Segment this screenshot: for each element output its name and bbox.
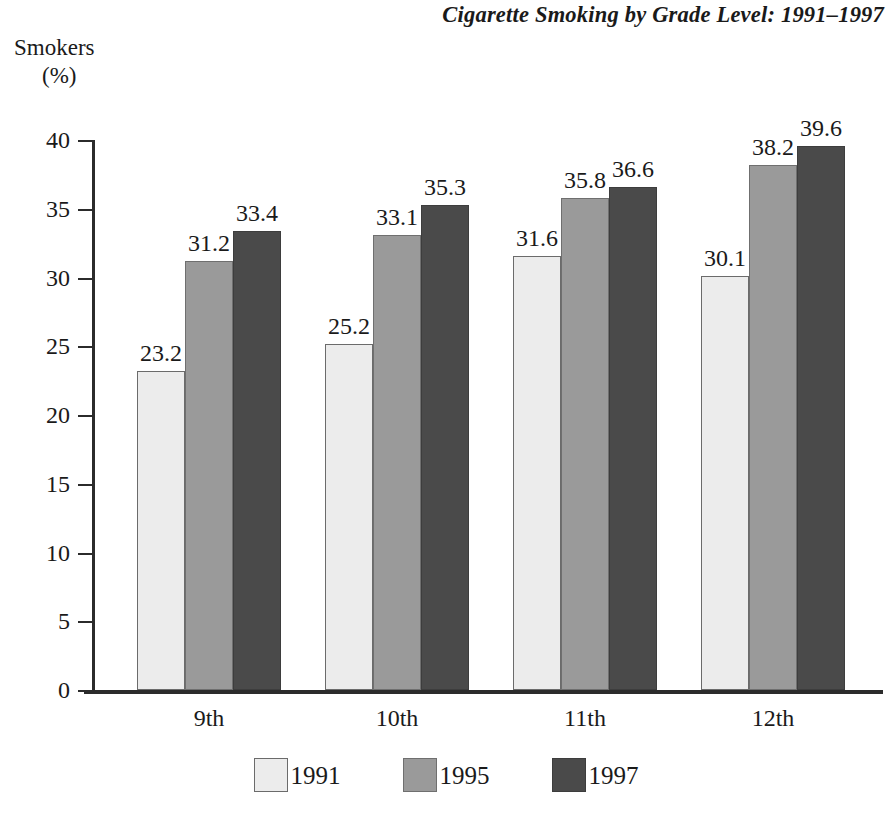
legend-item-1991[interactable]: 1991 bbox=[254, 758, 341, 792]
bar-12th-1991 bbox=[701, 276, 749, 690]
y-tick-label: 20 bbox=[46, 403, 70, 427]
y-tick-label: 0 bbox=[58, 678, 70, 702]
y-tick-label: 40 bbox=[46, 128, 70, 152]
bar-value-label: 31.6 bbox=[516, 226, 558, 250]
legend-label: 1995 bbox=[440, 763, 490, 788]
bar-value-label: 33.4 bbox=[236, 201, 278, 225]
y-tick-15: 15 bbox=[78, 484, 92, 486]
bar-11th-1995 bbox=[561, 198, 609, 690]
bar-value-label: 39.6 bbox=[800, 116, 842, 140]
bar-value-label: 23.2 bbox=[140, 341, 182, 365]
plot-area: 0510152025303540 23.231.233.425.233.135.… bbox=[92, 140, 887, 690]
bar-value-label: 25.2 bbox=[328, 314, 370, 338]
legend-item-1995[interactable]: 1995 bbox=[403, 758, 490, 792]
y-tick-40: 40 bbox=[78, 140, 92, 142]
chart-legend: 199119951997 bbox=[0, 758, 892, 792]
bar-10th-1991 bbox=[325, 344, 373, 691]
legend-swatch-icon bbox=[254, 758, 288, 792]
legend-item-1997[interactable]: 1997 bbox=[552, 758, 639, 792]
chart-figure: Cigarette Smoking by Grade Level: 1991–1… bbox=[0, 0, 892, 819]
x-category-label-12th: 12th bbox=[752, 706, 795, 730]
y-tick-25: 25 bbox=[78, 346, 92, 348]
bar-9th-1995 bbox=[185, 261, 233, 690]
y-tick-30: 30 bbox=[78, 278, 92, 280]
y-axis-label-text: Smokers bbox=[8, 34, 124, 62]
y-tick-0: 0 bbox=[78, 690, 92, 692]
y-tick-10: 10 bbox=[78, 553, 92, 555]
bar-9th-1997 bbox=[233, 231, 281, 690]
y-tick-label: 10 bbox=[46, 540, 70, 564]
bar-value-label: 31.2 bbox=[188, 231, 230, 255]
bar-10th-1995 bbox=[373, 235, 421, 690]
bar-11th-1997 bbox=[609, 187, 657, 690]
bar-10th-1997 bbox=[421, 205, 469, 690]
y-tick-label: 30 bbox=[46, 265, 70, 289]
y-tick-label: 5 bbox=[58, 609, 70, 633]
legend-label: 1997 bbox=[589, 763, 639, 788]
bar-value-label: 35.8 bbox=[564, 168, 606, 192]
y-axis-label: Smokers (%) bbox=[8, 34, 124, 90]
y-tick-20: 20 bbox=[78, 415, 92, 417]
bar-11th-1991 bbox=[513, 256, 561, 691]
y-tick-5: 5 bbox=[78, 621, 92, 623]
bar-value-label: 33.1 bbox=[376, 205, 418, 229]
y-tick-label: 35 bbox=[46, 196, 70, 220]
bar-value-label: 38.2 bbox=[752, 135, 794, 159]
legend-label: 1991 bbox=[291, 763, 341, 788]
bar-12th-1995 bbox=[749, 165, 797, 690]
x-category-label-9th: 9th bbox=[194, 706, 225, 730]
bar-value-label: 30.1 bbox=[704, 246, 746, 270]
legend-swatch-icon bbox=[552, 758, 586, 792]
bar-value-label: 35.3 bbox=[424, 175, 466, 199]
y-tick-label: 25 bbox=[46, 334, 70, 358]
y-tick-label: 15 bbox=[46, 471, 70, 495]
legend-swatch-icon bbox=[403, 758, 437, 792]
y-tick-35: 35 bbox=[78, 209, 92, 211]
bar-12th-1997 bbox=[797, 146, 845, 691]
x-axis-line bbox=[84, 690, 883, 694]
y-axis-line bbox=[92, 140, 95, 692]
y-axis-label-unit: (%) bbox=[8, 62, 124, 90]
bar-value-label: 36.6 bbox=[612, 157, 654, 181]
bar-9th-1991 bbox=[137, 371, 185, 690]
x-category-label-10th: 10th bbox=[376, 706, 419, 730]
chart-title: Cigarette Smoking by Grade Level: 1991–1… bbox=[442, 2, 884, 28]
x-category-label-11th: 11th bbox=[564, 706, 606, 730]
